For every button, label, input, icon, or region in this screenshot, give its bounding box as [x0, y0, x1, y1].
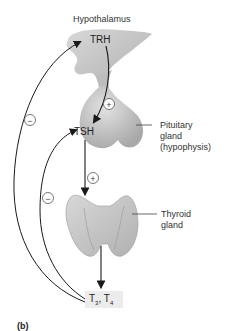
- trh-label: TRH: [90, 34, 111, 45]
- pituitary-label: Pituitary gland (hypophysis): [160, 120, 211, 153]
- pituitary-label-line1: Pituitary: [160, 120, 211, 131]
- minus-sign-hypothalamus: −: [25, 115, 36, 126]
- tsh-label: TSH: [74, 126, 94, 137]
- t3-t4-label: T3, T4: [89, 293, 113, 306]
- minus-text: −: [45, 194, 50, 204]
- pituitary-shape: [80, 86, 143, 148]
- feedback-to-hypothalamus: [14, 42, 85, 302]
- plus-sign-trh: +: [104, 99, 115, 110]
- plus-text: +: [106, 100, 111, 110]
- hypothalamus-label: Hypothalamus: [73, 14, 131, 25]
- pituitary-label-line3: (hypophysis): [160, 142, 211, 153]
- feedback-diagram: + + − −: [0, 0, 233, 331]
- thyroid-label: Thyroid gland: [161, 209, 191, 231]
- thyroid-label-line2: gland: [161, 220, 191, 231]
- minus-sign-pituitary: −: [43, 193, 54, 204]
- panel-label: (b): [17, 321, 29, 331]
- pituitary-label-line2: gland: [160, 131, 211, 142]
- thyroid-shape: [66, 195, 138, 256]
- minus-text: −: [27, 116, 32, 126]
- t4-base: , T: [98, 293, 109, 304]
- thyroid-label-line1: Thyroid: [161, 209, 191, 220]
- t4-sub: 4: [110, 300, 113, 306]
- plus-text: +: [90, 174, 95, 184]
- plus-sign-tsh: +: [88, 173, 99, 184]
